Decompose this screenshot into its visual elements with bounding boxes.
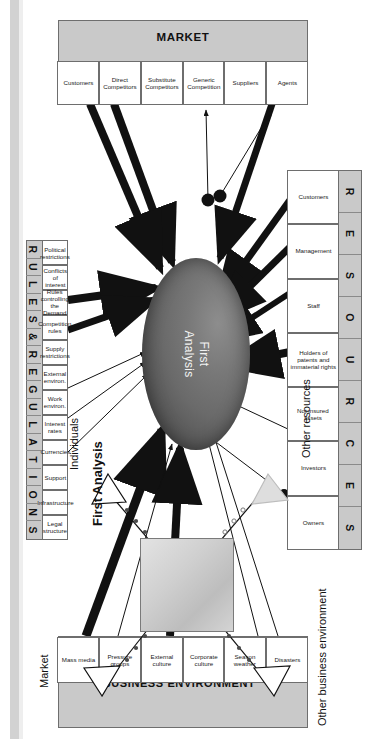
rules-arrows — [68, 288, 156, 330]
list-item: Suppliers — [224, 61, 266, 105]
letter: O — [339, 297, 361, 339]
list-item: Work environ. — [42, 390, 68, 415]
list-item: Political restrictions — [42, 240, 68, 265]
letter: E — [339, 213, 361, 255]
list-item: Competition rules — [42, 315, 68, 340]
letter: U — [26, 399, 41, 417]
list-item: Supply restrictions — [42, 340, 68, 365]
market-arrows — [90, 104, 272, 268]
radar-panel: First Analysis Individuals Other resourc… — [0, 430, 368, 739]
list-item: Substitute Competitors — [141, 61, 183, 105]
letter: E — [26, 364, 41, 382]
letter: S — [339, 255, 361, 297]
letter: E — [26, 294, 41, 312]
radar-axis-label-individuals: Individuals — [68, 418, 81, 470]
list-item: Generic Competition — [183, 61, 225, 105]
radar-center-box — [140, 538, 234, 632]
list-item: External environ. — [42, 365, 68, 390]
letter: U — [26, 259, 41, 277]
market-items: Agents Suppliers Generic Competition Sub… — [57, 61, 308, 105]
letter: R — [339, 171, 361, 213]
list-item-label: Suppliers — [225, 79, 265, 86]
connector-dot-market-2 — [214, 190, 227, 203]
list-item: Customers — [287, 170, 339, 224]
center-node-label-line1: First — [197, 342, 211, 367]
letter: S — [26, 311, 41, 329]
letter: R — [26, 346, 41, 364]
radar-axis-label-market: Market — [38, 654, 51, 688]
list-item: Management — [287, 224, 339, 278]
list-item-label: Agents — [267, 79, 307, 86]
list-item: Holders of patents and immaterial rights — [287, 333, 339, 387]
list-item: Rules controlling the Demand — [42, 290, 68, 315]
list-item-label: Customers — [58, 79, 98, 86]
list-item: Direct Competitors — [99, 61, 141, 105]
radar-axis-label-other-business-environment: Other business environment — [316, 576, 329, 726]
radar-title: First Analysis — [90, 406, 105, 526]
letter: R — [26, 241, 41, 259]
list-item-label: Direct Competitors — [100, 76, 140, 90]
list-item-label: Generic Competition — [183, 76, 223, 90]
radar-axis-label-text: Other resources — [300, 379, 312, 458]
center-node-first-analysis: First Analysis — [142, 258, 250, 450]
letter: L — [26, 276, 41, 294]
list-item-label: Substitute Competitors — [142, 76, 182, 90]
letter: R — [339, 381, 361, 423]
list-item: Agents — [266, 61, 308, 105]
group-title: MARKET — [141, 31, 225, 43]
letter: U — [339, 339, 361, 381]
list-item: Customers — [57, 61, 99, 105]
radar-axis-label-text: Other business environment — [316, 588, 328, 726]
center-node-label: First Analysis — [181, 258, 211, 450]
faint-page-header — [0, 0, 6, 18]
letter: & — [26, 329, 41, 347]
group-market: MARKET Agents Suppliers Generic Competit… — [58, 20, 308, 104]
letter: G — [26, 381, 41, 399]
connector-dot-market-1 — [202, 194, 215, 207]
list-item: Conflicts of interest — [42, 265, 68, 290]
center-node-label-line2: Analysis — [182, 330, 196, 377]
radar-axis-label-other-resources: Other resources — [300, 358, 313, 458]
list-item: Staff — [287, 279, 339, 333]
page-canvas: R E S O U R C E S Customers Management S… — [0, 0, 368, 739]
